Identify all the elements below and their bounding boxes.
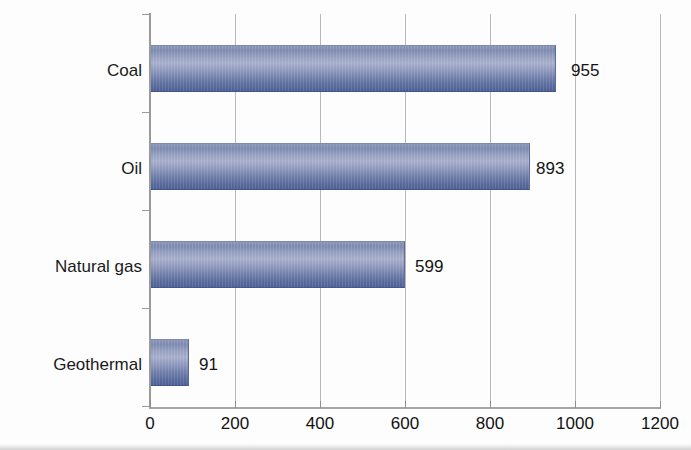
value-label-oil: 893	[536, 160, 564, 177]
value-tick-200	[235, 401, 236, 408]
value-tick-1000	[575, 401, 576, 408]
xtick-label-1200: 1200	[641, 415, 679, 432]
value-tick-1200	[660, 401, 661, 408]
bar-geothermal	[150, 339, 189, 386]
category-label-group: Coal Oil Natural gas Geothermal	[0, 0, 142, 450]
category-label-natural-gas: Natural gas	[0, 258, 142, 275]
xtick-label-600: 600	[391, 415, 419, 432]
bar-chart: Coal Oil Natural gas Geothermal 955 893 …	[0, 0, 691, 450]
value-tick-600	[405, 401, 406, 408]
value-label-coal: 955	[571, 62, 599, 79]
xtick-label-800: 800	[476, 415, 504, 432]
value-label-geothermal: 91	[199, 356, 218, 373]
bar-oil	[150, 143, 530, 190]
bar-natural-gas	[150, 241, 405, 288]
scan-edge-artifact	[0, 444, 691, 450]
category-tick-2	[142, 210, 150, 211]
xtick-label-1000: 1000	[556, 415, 594, 432]
bar-coal	[150, 45, 556, 92]
category-tick-3	[142, 308, 150, 309]
gridline-1200	[660, 14, 661, 408]
value-tick-0	[150, 401, 151, 408]
category-tick-4	[142, 406, 150, 407]
category-axis-line	[149, 13, 151, 409]
value-tick-400	[320, 401, 321, 408]
xtick-label-0: 0	[145, 415, 154, 432]
value-label-natural-gas: 599	[415, 258, 443, 275]
category-label-oil: Oil	[0, 160, 142, 177]
category-label-coal: Coal	[0, 62, 142, 79]
xtick-label-200: 200	[221, 415, 249, 432]
category-label-geothermal: Geothermal	[0, 356, 142, 373]
value-tick-800	[490, 401, 491, 408]
xtick-label-400: 400	[306, 415, 334, 432]
category-tick-1	[142, 112, 150, 113]
category-tick-0	[142, 14, 150, 15]
